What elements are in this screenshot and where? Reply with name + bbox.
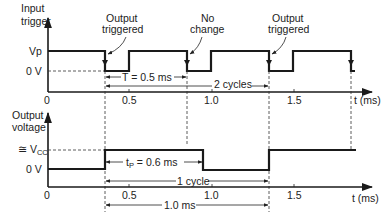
- annotation-pointer-icon: [272, 37, 286, 54]
- annotation-output-triggered-2-line2: triggered: [268, 23, 310, 35]
- dim-pulse-width-label: tP = 0.6 ms: [126, 156, 177, 170]
- bottom-ylabel-line2: voltage: [12, 121, 46, 133]
- bottom-tick-0: 0: [44, 189, 50, 201]
- annotation-pointer-icon: [190, 37, 202, 54]
- bottom-level-vcc: ≅ VCC: [18, 143, 48, 157]
- top-tick-0.5: 0.5: [122, 94, 137, 106]
- input-trigger-panel: Input trigger Vp 0 V Output triggered No…: [21, 2, 381, 106]
- falling-edge-arrow-icon: [184, 60, 190, 66]
- top-ylabel-line2: trigger: [21, 15, 51, 27]
- top-xlabel: t (ms): [354, 94, 381, 106]
- bottom-tick-1.0: 1.0: [204, 189, 219, 201]
- bottom-ylabel-line1: Output: [12, 109, 44, 121]
- top-level-vp: Vp: [29, 45, 42, 57]
- annotation-pointer-icon: [108, 37, 126, 54]
- bottom-tick-1.5: 1.5: [287, 189, 302, 201]
- dim-one-cycle-label: 1 cycle: [177, 175, 210, 187]
- dim-two-cycles-label: 2 cycles: [214, 78, 252, 90]
- output-voltage-panel: Output voltage ≅ VCC 0 V tP = 0.6 ms 1 c…: [12, 109, 379, 211]
- falling-edge-arrow-icon: [266, 60, 272, 66]
- annotation-no-change-line2: change: [190, 23, 225, 35]
- top-tick-0: 0: [44, 94, 50, 106]
- top-tick-1.5: 1.5: [287, 94, 302, 106]
- bottom-tick-0.5: 0.5: [122, 189, 137, 201]
- bottom-xlabel: t (ms): [352, 192, 379, 204]
- dim-one-ms-label: 1.0 ms: [164, 199, 196, 211]
- input-trigger-waveform: [48, 51, 355, 71]
- falling-edge-arrow-icon: [102, 60, 108, 66]
- one-shot-timing-diagram: Input trigger Vp 0 V Output triggered No…: [0, 0, 391, 222]
- top-level-0v: 0 V: [26, 65, 42, 77]
- dim-period-label: T = 0.5 ms: [122, 71, 172, 83]
- output-voltage-waveform: [48, 150, 356, 170]
- bottom-level-0v: 0 V: [26, 163, 42, 175]
- falling-edge-arrow-icon: [348, 60, 354, 66]
- annotation-output-triggered-1-line2: triggered: [102, 23, 144, 35]
- top-ylabel-line1: Input: [21, 2, 44, 14]
- top-tick-1.0: 1.0: [204, 94, 219, 106]
